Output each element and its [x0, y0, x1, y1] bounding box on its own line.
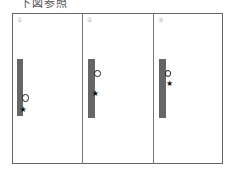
circle-marker-icon	[94, 70, 101, 77]
panel-divider	[82, 13, 83, 164]
panel-divider	[153, 13, 154, 164]
panel-2-label: ②	[87, 16, 92, 23]
grid-table: ★	[17, 59, 23, 116]
grid-cell	[22, 60, 23, 71]
grid-cell	[94, 98, 95, 108]
panel-3-label: ③	[158, 16, 163, 23]
panel-1-label: ①	[17, 16, 22, 23]
grid-table: ★	[159, 59, 166, 118]
grid-cell	[94, 60, 95, 70]
grid-cell	[94, 79, 95, 89]
header-text: 下図参照	[20, 0, 68, 10]
grid-cell	[94, 88, 95, 98]
panel-frame	[12, 13, 223, 164]
grid-cell	[22, 93, 23, 104]
star-marker-icon: ★	[166, 80, 173, 88]
grid-cell	[165, 69, 166, 79]
grid-cell: ★	[165, 79, 166, 89]
grid-cell	[22, 71, 23, 82]
grid-cell	[94, 69, 95, 79]
circle-marker-icon	[165, 70, 172, 77]
grid-table: ★	[88, 59, 95, 118]
grid-cell	[22, 82, 23, 93]
grid-cell	[165, 98, 166, 108]
grid-cell	[22, 104, 23, 115]
grid-cell	[165, 108, 166, 118]
grid-cell	[165, 60, 166, 70]
grid-cell	[165, 88, 166, 98]
grid-cell	[94, 108, 95, 118]
